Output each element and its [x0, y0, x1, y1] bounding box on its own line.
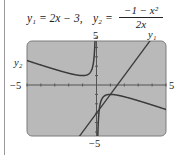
- y1-curve-label: y₁: [148, 29, 156, 40]
- graph-screen: [0, 0, 185, 155]
- ymin-label: −5: [89, 138, 100, 149]
- xmin-label: −5: [10, 80, 21, 91]
- ymax-label: 5: [93, 30, 98, 41]
- xmax-label: 5: [169, 80, 174, 91]
- y2-curve-label: y₂: [14, 57, 22, 68]
